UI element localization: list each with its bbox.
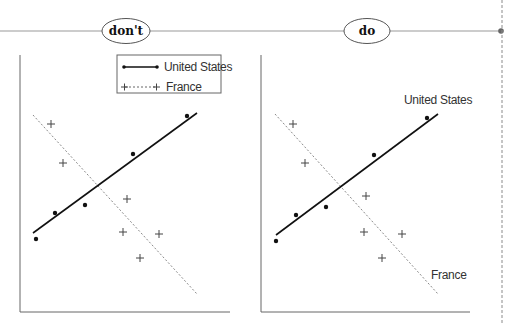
- dont-tag: don't: [102, 19, 150, 44]
- legend: United States France: [117, 55, 232, 94]
- us-trendline: [33, 113, 197, 233]
- us-direct-label: United States: [404, 93, 472, 107]
- us-points: [34, 114, 189, 241]
- us-trendline: [276, 114, 438, 235]
- france-points: [47, 120, 163, 262]
- france-trendline: [33, 115, 197, 294]
- legend-us-label: United States: [164, 60, 232, 74]
- france-points: [289, 120, 406, 262]
- do-tag: do: [344, 19, 390, 44]
- legend-france-label: France: [166, 80, 202, 94]
- right-chart: United States France: [261, 55, 472, 312]
- dont-label: don't: [109, 24, 144, 38]
- comparison-diagram: don't do United States France: [0, 0, 506, 323]
- france-direct-label: France: [431, 268, 467, 282]
- france-trendline: [275, 114, 438, 294]
- rule-end-dot: [498, 28, 504, 34]
- do-label: do: [359, 24, 375, 38]
- left-chart: United States France: [20, 55, 232, 312]
